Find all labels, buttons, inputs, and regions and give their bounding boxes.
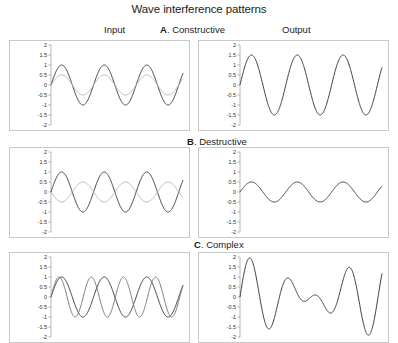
y-axis-tick-label: -1.5 <box>38 324 47 330</box>
y-axis-tick-label: -1 <box>231 314 236 320</box>
column-header-input: Input <box>104 24 125 35</box>
panel-name-b: Destructive <box>199 136 247 147</box>
y-axis-tick-label: 2 <box>44 149 47 155</box>
y-axis-tick-label: -1 <box>42 102 47 108</box>
panel-name-c: Complex <box>206 239 244 250</box>
y-axis-tick-label: 1.5 <box>229 52 237 58</box>
y-axis-tick-label: 1 <box>44 274 47 280</box>
y-axis-tick-label: 0.5 <box>229 179 237 185</box>
y-axis-tick-label: -2 <box>42 122 47 128</box>
y-axis-tick-label: -0.5 <box>227 92 236 98</box>
y-axis-tick-label: 1 <box>233 274 236 280</box>
wave-curve <box>51 65 183 105</box>
y-axis-tick-label: -1 <box>42 209 47 215</box>
y-axis-tick-label: 1 <box>44 62 47 68</box>
wave-curve <box>240 258 382 335</box>
y-axis-tick-label: -0.5 <box>38 92 47 98</box>
chart-svg: 21.510.50-0.5-1-1.5-2 <box>199 148 388 237</box>
y-axis-tick-label: 0.5 <box>229 284 237 290</box>
plot-a-output: 21.510.50-0.5-1-1.5-2 <box>198 40 389 131</box>
plot-b-input: 21.510.50-0.5-1-1.5-2 <box>9 147 190 238</box>
y-axis-tick-label: -2 <box>42 229 47 235</box>
wave-curve <box>240 55 382 115</box>
y-axis-tick-label: 0 <box>233 189 236 195</box>
panel-label-a: A. Constructive <box>160 24 225 35</box>
y-axis-tick-label: -1 <box>231 209 236 215</box>
y-axis-tick-label: -2 <box>231 122 236 128</box>
figure-title: Wave interference patterns <box>0 3 398 15</box>
y-axis-tick-label: 2 <box>233 149 236 155</box>
y-axis-tick-label: -1 <box>42 314 47 320</box>
y-axis-tick-label: -0.5 <box>38 199 47 205</box>
panel-letter-c: C <box>194 239 201 250</box>
y-axis-tick-label: 1 <box>233 169 236 175</box>
y-axis-tick-label: -2 <box>231 334 236 340</box>
y-axis-tick-label: 0.5 <box>40 72 48 78</box>
y-axis-tick-label: -1.5 <box>227 219 236 225</box>
plot-b-output: 21.510.50-0.5-1-1.5-2 <box>198 147 389 238</box>
chart-svg: 21.510.50-0.5-1-1.5-2 <box>199 253 388 342</box>
y-axis-tick-label: 2 <box>44 42 47 48</box>
y-axis-tick-label: 0.5 <box>40 179 48 185</box>
y-axis-tick-label: 1.5 <box>40 264 48 270</box>
plot-c-input: 21.510.50-0.5-1-1.5-2 <box>9 252 190 343</box>
wave-curve <box>51 172 183 212</box>
column-header-output: Output <box>282 24 311 35</box>
y-axis-tick-label: -0.5 <box>38 304 47 310</box>
panel-letter-a: A <box>160 24 167 35</box>
y-axis-tick-label: -1.5 <box>227 324 236 330</box>
y-axis-tick-label: -0.5 <box>227 199 236 205</box>
y-axis-tick-label: 0 <box>44 294 47 300</box>
panel-label-c: C. Complex <box>194 239 244 250</box>
y-axis-tick-label: 0 <box>44 82 47 88</box>
y-axis-tick-label: -2 <box>42 334 47 340</box>
panel-letter-b: B <box>187 136 194 147</box>
y-axis-tick-label: 2 <box>233 42 236 48</box>
y-axis-tick-label: 1.5 <box>40 159 48 165</box>
y-axis-tick-label: 0 <box>44 189 47 195</box>
y-axis-tick-label: 1 <box>233 62 236 68</box>
y-axis-tick-label: -2 <box>231 229 236 235</box>
y-axis-tick-label: 1 <box>44 169 47 175</box>
y-axis-tick-label: 2 <box>233 254 236 260</box>
y-axis-tick-label: 1.5 <box>40 52 48 58</box>
plot-c-output: 21.510.50-0.5-1-1.5-2 <box>198 252 389 343</box>
y-axis-tick-label: 0.5 <box>40 284 48 290</box>
y-axis-tick-label: -0.5 <box>227 304 236 310</box>
panel-name-a: Constructive <box>172 24 225 35</box>
y-axis-tick-label: 0 <box>233 294 236 300</box>
chart-svg: 21.510.50-0.5-1-1.5-2 <box>10 148 189 237</box>
y-axis-tick-label: 0.5 <box>229 72 237 78</box>
y-axis-tick-label: -1.5 <box>38 112 47 118</box>
y-axis-tick-label: -1.5 <box>38 219 47 225</box>
plot-a-input: 21.510.50-0.5-1-1.5-2 <box>9 40 190 131</box>
panel-label-b: B. Destructive <box>187 136 247 147</box>
chart-svg: 21.510.50-0.5-1-1.5-2 <box>10 41 189 130</box>
chart-svg: 21.510.50-0.5-1-1.5-2 <box>10 253 189 342</box>
y-axis-tick-label: 1.5 <box>229 159 237 165</box>
y-axis-tick-label: 2 <box>44 254 47 260</box>
y-axis-tick-label: 0 <box>233 82 236 88</box>
y-axis-tick-label: 1.5 <box>229 264 237 270</box>
wave-curve <box>240 182 382 202</box>
y-axis-tick-label: -1 <box>231 102 236 108</box>
chart-svg: 21.510.50-0.5-1-1.5-2 <box>199 41 388 130</box>
y-axis-tick-label: -1.5 <box>227 112 236 118</box>
